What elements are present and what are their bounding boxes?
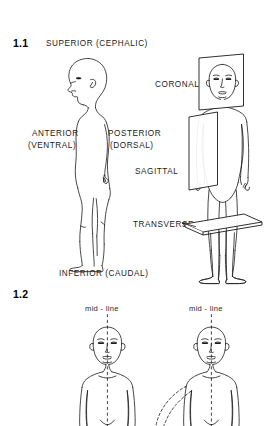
anterior-figure-right-abduction [0,0,266,426]
anatomy-figure-page: 1.1 SUPERIOR (CEPHALIC) ANTERIOR (VENTRA… [0,0,266,426]
